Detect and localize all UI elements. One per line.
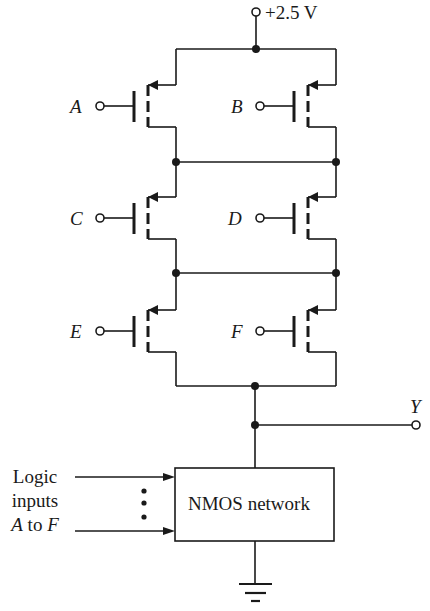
output-label-y: Y [410, 397, 421, 416]
pmos-transistor-b [256, 49, 336, 162]
logic-inputs-line-1: Logic [2, 465, 68, 489]
ground-icon [239, 541, 272, 601]
pmos-transistor-d [256, 162, 336, 273]
output-terminal-y [251, 421, 420, 429]
gate-label-c: C [70, 209, 83, 228]
logic-input-arrows [75, 473, 175, 535]
pmos-transistor-c [96, 162, 176, 273]
supply-voltage-label: +2.5 V [265, 3, 318, 22]
pmos-transistor-e [96, 273, 176, 386]
gate-label-f: F [231, 322, 243, 341]
pmos-transistor-a [96, 49, 176, 162]
logic-inputs-label: Logic inputs A to F [2, 465, 68, 537]
node-row-2 [172, 269, 340, 277]
gate-label-d: D [228, 209, 242, 228]
logic-inputs-line-2: inputs [2, 489, 68, 513]
nmos-network-label: NMOS network [188, 494, 310, 513]
cmos-circuit-diagram: +2.5 V A B C D E F Y NMOS network Logic … [0, 0, 430, 611]
logic-inputs-line-3: A to F [2, 513, 68, 537]
node-row-1 [172, 158, 340, 166]
pmos-transistor-f [256, 273, 336, 386]
gate-label-b: B [231, 97, 243, 116]
gate-label-a: A [70, 97, 82, 116]
gate-label-e: E [70, 322, 82, 341]
